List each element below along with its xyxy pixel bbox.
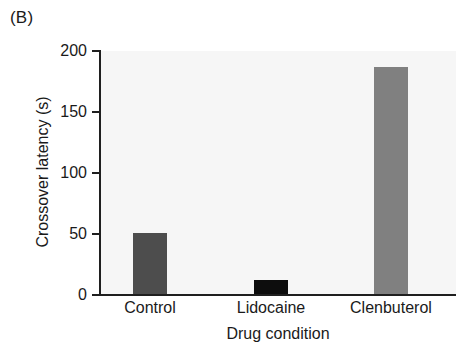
y-axis-tick (92, 233, 100, 235)
y-axis-tick (92, 111, 100, 113)
y-axis-tick-label: 50 (69, 226, 87, 242)
figure-panel-b: (B) Crossover latency (s) 050100150200 C… (0, 0, 476, 362)
x-axis-title: Drug condition (100, 325, 456, 343)
x-axis-tick-label-control: Control (91, 299, 210, 317)
y-axis-tick-label: 100 (60, 165, 87, 181)
y-axis-tick (92, 50, 100, 52)
bar-control (133, 233, 167, 295)
x-axis-tick-label-clenbuterol: Clenbuterol (332, 299, 451, 317)
y-axis-tick-label: 0 (78, 287, 87, 303)
x-axis-tick-label-lidocaine: Lidocaine (212, 299, 331, 317)
x-axis-line (99, 294, 456, 296)
bar-clenbuterol (374, 67, 408, 295)
y-axis-tick-label: 150 (60, 104, 87, 120)
y-axis-tick-label: 200 (60, 43, 87, 59)
bar-lidocaine (254, 280, 288, 295)
panel-label: (B) (10, 8, 33, 28)
y-axis-tick (92, 172, 100, 174)
y-axis-title: Crossover latency (s) (34, 47, 52, 297)
y-axis-tick (92, 294, 100, 296)
plot-area (100, 51, 456, 295)
